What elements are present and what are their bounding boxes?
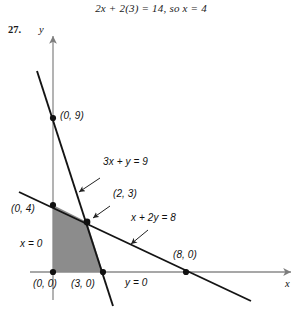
pointer-arrow-x-plus-2y xyxy=(131,230,148,244)
worksheet-page: 2x + 2(3) = 14, so x = 4 27. xyxy=(0,0,302,324)
point-label-8-0: (8, 0) xyxy=(173,249,197,260)
pointer-arrow-3x-plus-y xyxy=(79,178,100,192)
point-2-3-dot xyxy=(84,219,91,226)
constraint-label-3x-plus-y: 3x + y = 9 xyxy=(103,156,148,167)
constraint-label-x-plus-2y: x + 2y = 8 xyxy=(131,212,176,223)
graph-figure xyxy=(0,0,302,324)
pointer-arrow-point-2-3 xyxy=(93,206,110,218)
point-label-3-0: (3, 0) xyxy=(71,278,95,289)
constraint-label-x-equals-0: x = 0 xyxy=(20,238,42,249)
point-0-4-dot xyxy=(50,202,56,208)
point-8-0-dot xyxy=(183,269,189,275)
point-label-0-4: (0, 4) xyxy=(11,203,35,214)
constraint-label-y-equals-0: y = 0 xyxy=(125,277,147,288)
point-3-0-dot xyxy=(100,269,106,275)
point-label-0-0: (0, 0) xyxy=(33,278,57,289)
y-axis-label: y xyxy=(39,24,44,35)
point-0-0-dot xyxy=(50,269,56,275)
point-label-2-3: (2, 3) xyxy=(113,188,137,199)
shaded-feasible-region xyxy=(53,205,103,272)
point-0-9-dot xyxy=(50,115,56,121)
x-axis-label: x xyxy=(285,278,290,289)
point-label-0-9: (0, 9) xyxy=(60,110,84,121)
